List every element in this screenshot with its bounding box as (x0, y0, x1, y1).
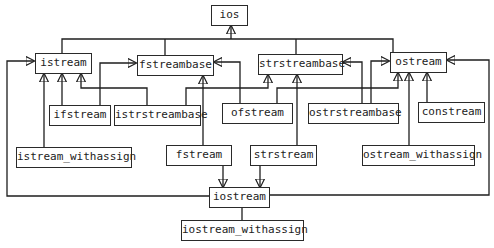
class-istrstreambase: istrstreambase (114, 105, 201, 126)
class-istream: istream (35, 53, 92, 74)
class-ios: ios (211, 5, 248, 26)
class-ostream-withassign: ostream_withassign (362, 145, 475, 166)
class-iostream-withassign: iostream_withassign (181, 220, 304, 241)
class-strstreambase: strstreambase (258, 54, 343, 75)
class-istream-withassign: istream_withassign (16, 147, 132, 168)
class-ostream: ostream (390, 52, 447, 73)
class-ostrstreambase: ostrstreambase (308, 103, 399, 124)
class-iostream: iostream (209, 187, 270, 208)
class-constream: constream (418, 102, 485, 123)
class-strstream: strstream (250, 145, 317, 166)
class-ofstream: ofstream (222, 103, 293, 124)
class-hierarchy-diagram: ios istream fstreambase strstreambase os… (0, 0, 494, 248)
class-ifstream: ifstream (49, 105, 111, 126)
class-fstream: fstream (166, 145, 232, 166)
class-fstreambase: fstreambase (137, 55, 214, 76)
